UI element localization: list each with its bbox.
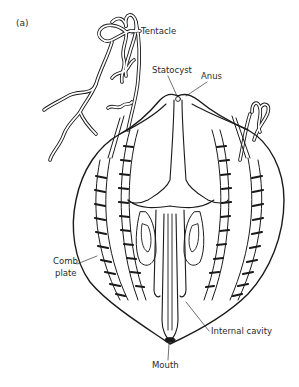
tentacles: [44, 15, 268, 160]
label-statocyst: Statocyst: [152, 66, 192, 75]
left-pouch: [136, 212, 156, 265]
statocyst: [176, 97, 181, 102]
label-mouth: Mouth: [152, 361, 179, 370]
label-plate: plate: [55, 269, 77, 278]
label-tentacle: Tentacle: [141, 27, 176, 36]
panel-label: (a): [16, 19, 29, 28]
comb-rows: [96, 116, 262, 300]
mouth-opening: [165, 338, 175, 343]
right-pouch: [184, 212, 204, 265]
label-anus: Anus: [201, 72, 222, 81]
pharynx: [128, 100, 228, 203]
tentacles-inner: [44, 15, 268, 160]
comb-plates: [95, 146, 263, 296]
label-comb: Comb: [53, 257, 78, 266]
label-internal-cavity: Internal cavity: [211, 327, 272, 336]
ctenophore-diagram: (a) Tentacle Statocyst Anus Comb plate I…: [0, 0, 299, 387]
